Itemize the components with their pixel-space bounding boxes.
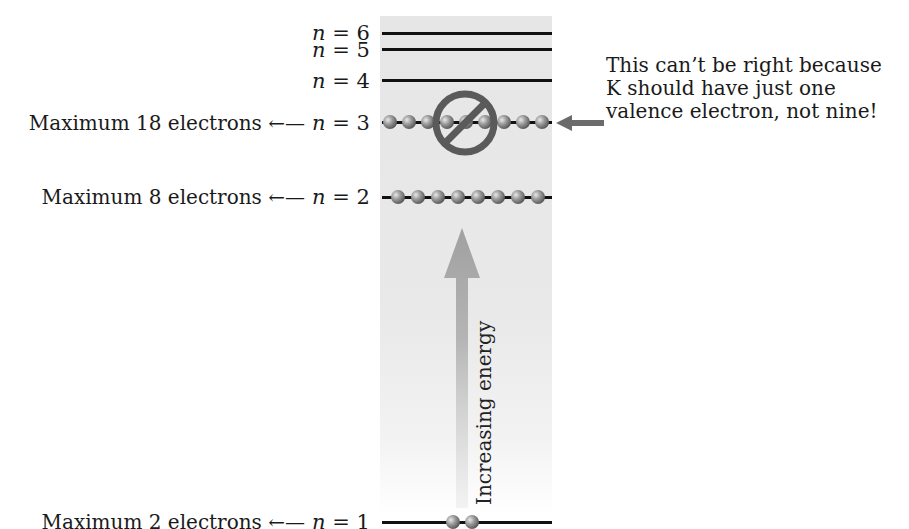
electron xyxy=(391,190,405,204)
electron xyxy=(446,515,460,529)
electron xyxy=(451,190,465,204)
annotation-note: This can’t be right because K should hav… xyxy=(606,54,882,123)
electron xyxy=(431,190,445,204)
level-line-n4 xyxy=(382,79,552,82)
level-label-n2: n = 2 xyxy=(312,186,370,208)
level-label-n3: n = 3 xyxy=(312,112,370,134)
level-line-n6 xyxy=(382,32,552,35)
pointer-arrow-icon xyxy=(556,114,606,132)
level-label-n1: n = 1 xyxy=(312,511,370,529)
note-line: valence electron, not nine! xyxy=(606,100,882,123)
electron xyxy=(531,190,545,204)
max-label-n1: Maximum 2 electrons ←— xyxy=(41,511,305,529)
note-line: This can’t be right because xyxy=(606,54,882,77)
no-sign-icon xyxy=(430,88,500,158)
electron xyxy=(465,515,479,529)
note-line: K should have just one xyxy=(606,77,882,100)
electron xyxy=(491,190,505,204)
level-label-n4: n = 4 xyxy=(312,70,370,92)
electron xyxy=(383,115,397,129)
electron xyxy=(516,115,530,129)
level-line-n5 xyxy=(382,48,552,51)
electron xyxy=(411,190,425,204)
electron xyxy=(471,190,485,204)
electron xyxy=(402,115,416,129)
level-line-n2 xyxy=(382,196,552,199)
electron xyxy=(511,190,525,204)
level-label-n5: n = 5 xyxy=(312,39,370,61)
max-label-n2: Maximum 8 electrons ←— xyxy=(41,186,305,208)
max-label-n3: Maximum 18 electrons ←— xyxy=(29,112,305,134)
energy-axis-label: Increasing energy xyxy=(472,321,496,505)
electron xyxy=(535,115,549,129)
